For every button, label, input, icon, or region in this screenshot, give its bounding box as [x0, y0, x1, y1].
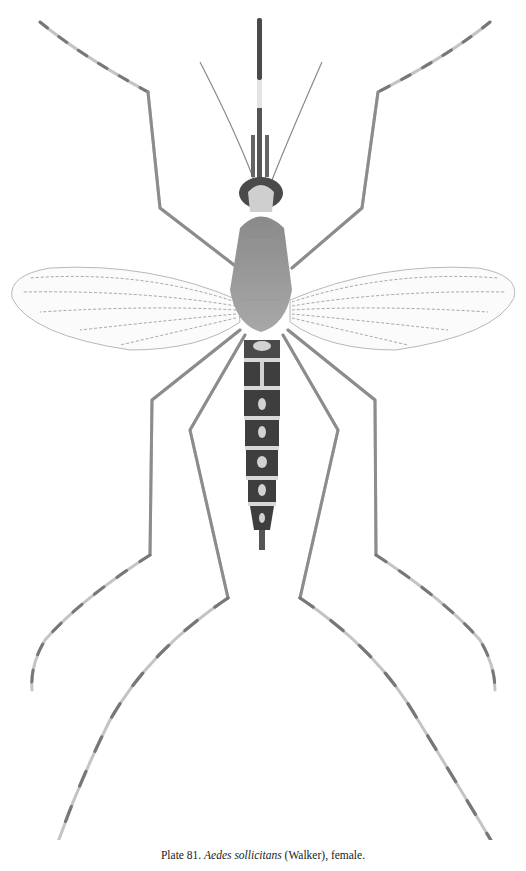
species-name: Aedes sollicitans: [204, 849, 282, 861]
head: [239, 177, 283, 212]
thorax: [230, 217, 292, 333]
mosquito-illustration: [0, 0, 526, 840]
specimen-sex: female.: [331, 849, 365, 861]
proboscis: [251, 18, 269, 178]
plate-label: Plate 81.: [161, 849, 201, 861]
abdomen: [244, 340, 280, 550]
species-authority: (Walker),: [285, 849, 328, 861]
plate-caption: Plate 81. Aedes sollicitans (Walker), fe…: [0, 849, 526, 861]
